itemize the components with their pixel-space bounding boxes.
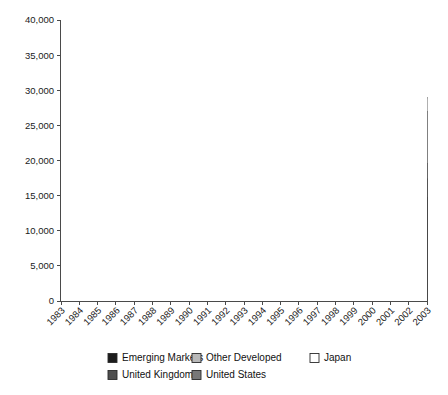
y-tick-label: 35,000 <box>25 50 54 61</box>
legend-label: United Kingdom <box>122 369 193 380</box>
y-tick-label: 25,000 <box>25 120 54 131</box>
legend-label: United States <box>206 369 266 380</box>
y-tick-label: 15,000 <box>25 190 54 201</box>
legend-item: Other Developed <box>192 352 282 363</box>
legend-swatch <box>108 371 117 380</box>
plot-area <box>57 20 427 305</box>
legend-label: Japan <box>324 352 351 363</box>
y-tick-label: 20,000 <box>25 155 54 166</box>
legend-swatch <box>192 371 201 380</box>
y-tick-label: 5,000 <box>30 260 54 271</box>
y-tick-label: 10,000 <box>25 225 54 236</box>
stacked-area-chart: 05,00010,00015,00020,00025,00030,00035,0… <box>0 0 448 395</box>
y-tick-label: 30,000 <box>25 85 54 96</box>
y-tick-label: 0 <box>49 295 54 306</box>
legend-label: Other Developed <box>206 352 282 363</box>
legend-item: Emerging Markets <box>108 352 203 363</box>
legend-item: Japan <box>310 352 351 363</box>
y-tick-label: 40,000 <box>25 14 54 25</box>
legend-swatch <box>192 354 201 363</box>
legend-swatch <box>310 354 319 363</box>
legend-swatch <box>108 354 117 363</box>
y-axis-labels: 05,00010,00015,00020,00025,00030,00035,0… <box>25 14 54 306</box>
legend-label: Emerging Markets <box>122 352 203 363</box>
